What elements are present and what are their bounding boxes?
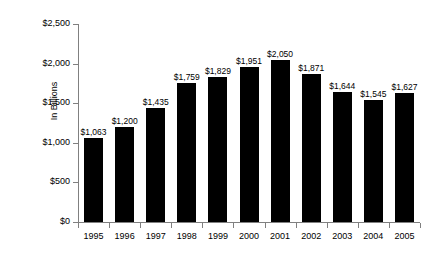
y-axis-tick	[73, 103, 78, 104]
bar-value-label: $1,200	[101, 116, 149, 126]
x-axis-tick	[202, 223, 203, 228]
bar	[146, 108, 165, 222]
x-axis-line	[78, 222, 420, 223]
y-axis-tick	[73, 143, 78, 144]
x-axis-tick	[140, 223, 141, 228]
bar	[240, 67, 259, 222]
bar-value-label: $1,871	[287, 63, 335, 73]
x-axis-tick	[358, 223, 359, 228]
x-axis-tick	[78, 223, 79, 228]
bar	[271, 60, 290, 222]
x-axis-tick	[327, 223, 328, 228]
x-axis-tick	[296, 223, 297, 228]
x-axis-tick	[233, 223, 234, 228]
y-axis-tick	[73, 24, 78, 25]
x-axis-tick	[171, 223, 172, 228]
y-axis-tick-label: $2,000	[26, 58, 70, 68]
bar	[395, 93, 414, 222]
y-axis-tick	[73, 182, 78, 183]
bar	[208, 77, 227, 222]
bar-value-label: $1,627	[380, 82, 428, 92]
y-axis-tick-label: $2,500	[26, 18, 70, 28]
x-axis-tick	[265, 223, 266, 228]
y-axis-tick	[73, 64, 78, 65]
bar	[364, 100, 383, 222]
bar-value-label: $2,050	[256, 49, 304, 59]
bar	[177, 83, 196, 222]
bar	[302, 74, 321, 222]
y-axis-tick-label: $500	[26, 176, 70, 186]
bar	[115, 127, 134, 222]
x-axis-tick-label: 2005	[384, 231, 424, 241]
x-axis-tick	[389, 223, 390, 228]
y-axis-tick-label: $1,000	[26, 137, 70, 147]
bar-chart: In Billions $0$500$1,000$1,500$2,000$2,5…	[0, 0, 438, 257]
y-axis-tick-label: $0	[26, 216, 70, 226]
bar-value-label: $1,063	[70, 127, 118, 137]
bar-value-label: $1,829	[194, 66, 242, 76]
y-axis-tick-label: $1,500	[26, 97, 70, 107]
x-axis-tick	[420, 223, 421, 228]
y-axis-line	[78, 24, 79, 223]
bar-value-label: $1,435	[132, 97, 180, 107]
bar	[333, 92, 352, 222]
bar	[84, 138, 103, 222]
x-axis-tick	[109, 223, 110, 228]
